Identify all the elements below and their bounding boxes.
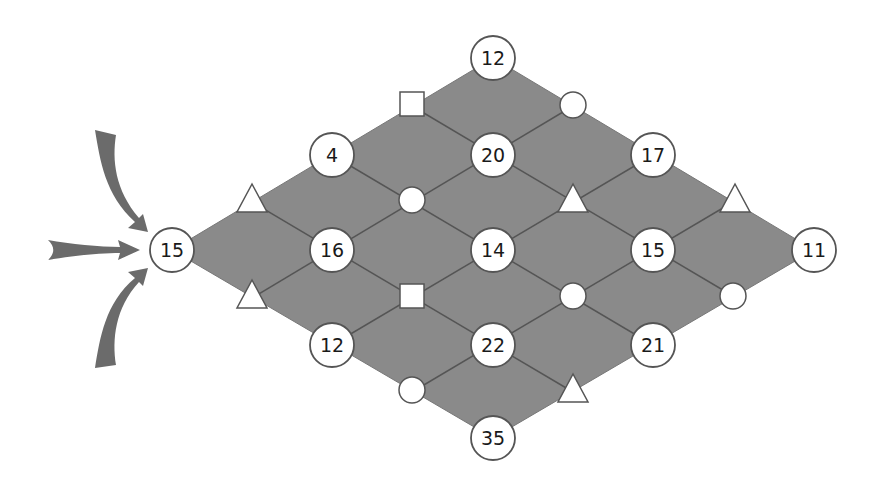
node-label: 35 <box>481 427 505 449</box>
node-label: 15 <box>641 239 665 261</box>
number-node: 14 <box>471 228 515 272</box>
node-label: 15 <box>160 239 184 261</box>
entry-arrows <box>48 130 148 368</box>
node-label: 4 <box>326 144 338 166</box>
circle-icon <box>399 377 425 403</box>
number-node: 16 <box>310 228 354 272</box>
arrow-from-top <box>95 130 148 232</box>
node-label: 16 <box>320 239 344 261</box>
circle-icon <box>399 187 425 213</box>
number-node: 11 <box>792 228 836 272</box>
puzzle-diagram: 1541612122014223517152111 <box>0 0 882 496</box>
arrow-from-left <box>48 240 140 260</box>
node-label: 17 <box>641 144 665 166</box>
node-label: 21 <box>641 334 665 356</box>
circle-icon <box>560 283 586 309</box>
circle-icon <box>720 283 746 309</box>
node-label: 12 <box>320 334 344 356</box>
node-label: 12 <box>481 47 505 69</box>
number-node: 22 <box>471 323 515 367</box>
number-node: 15 <box>150 228 194 272</box>
number-node: 4 <box>310 133 354 177</box>
arrow-from-bottom <box>95 268 148 368</box>
node-label: 14 <box>481 239 505 261</box>
number-node: 12 <box>471 36 515 80</box>
square-icon <box>400 284 424 308</box>
node-label: 20 <box>481 144 505 166</box>
circle-icon <box>560 92 586 118</box>
number-node: 20 <box>471 133 515 177</box>
number-node: 12 <box>310 323 354 367</box>
number-node: 35 <box>471 416 515 460</box>
number-node: 17 <box>631 133 675 177</box>
node-label: 11 <box>802 239 826 261</box>
number-node: 21 <box>631 323 675 367</box>
number-node: 15 <box>631 228 675 272</box>
square-icon <box>400 92 424 116</box>
node-label: 22 <box>481 334 505 356</box>
